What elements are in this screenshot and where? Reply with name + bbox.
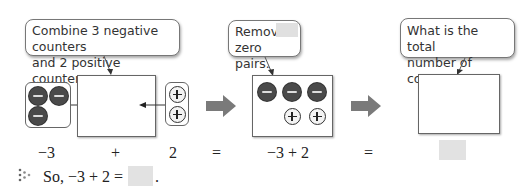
conclusion-answer-blank (128, 166, 153, 186)
callout-total-line1: What is the total (407, 23, 508, 55)
callout-pointer-arrow-icon (263, 57, 277, 77)
conclusion-period: . (155, 168, 159, 186)
dots-bullet-icon (17, 168, 31, 182)
positive-counter (169, 86, 186, 103)
combined-counters-mat (252, 75, 333, 137)
remove-blank-highlight (276, 23, 298, 37)
arrow-left-icon (139, 100, 167, 110)
callout-total: What is the total number of counters? (400, 18, 515, 58)
negative-counter (29, 107, 47, 125)
negative-counter (29, 87, 47, 105)
equation-plus: + (111, 144, 120, 162)
equation-combined: −3 + 2 (267, 144, 309, 162)
positive-counter (284, 108, 301, 125)
conclusion-text: So, −3 + 2 = (43, 168, 123, 186)
negative-counter (50, 87, 68, 105)
big-arrow-right-icon (206, 95, 236, 117)
equation-term1: −3 (38, 144, 55, 162)
callout-combine-line1: Combine 3 negative counters (32, 23, 173, 55)
positive-counter (309, 108, 326, 125)
result-mat (418, 74, 500, 134)
positive-counter (169, 106, 186, 123)
negative-counter (308, 83, 326, 101)
negative-counter (283, 83, 301, 101)
callout-pointer-arrow-icon (100, 56, 116, 76)
equation-term2: 2 (169, 144, 177, 162)
callout-combine: Combine 3 negative counters and 2 positi… (25, 19, 180, 56)
equation-answer-blank (439, 140, 466, 160)
big-arrow-right-icon (351, 95, 381, 117)
equation-equals: = (364, 144, 373, 162)
positive-counters-tray (165, 82, 189, 126)
negative-counters-tray (25, 82, 71, 128)
equation-equals: = (212, 144, 221, 162)
negative-counter (258, 83, 276, 101)
